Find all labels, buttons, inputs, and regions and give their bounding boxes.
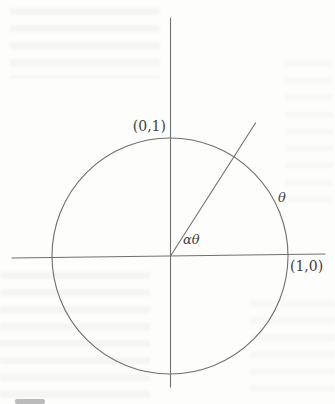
label-point-1-0: (1,0) [290, 258, 323, 274]
label-theta: θ [278, 190, 286, 205]
scanned-page: (0,1) (1,0) θ αθ [0, 0, 335, 404]
unit-circle-figure: (0,1) (1,0) θ αθ [0, 0, 335, 404]
cutoff-caption-mark [15, 399, 45, 404]
x-axis-line [12, 254, 325, 258]
label-alpha-theta: αθ [183, 232, 200, 247]
label-point-0-1: (0,1) [133, 118, 166, 134]
